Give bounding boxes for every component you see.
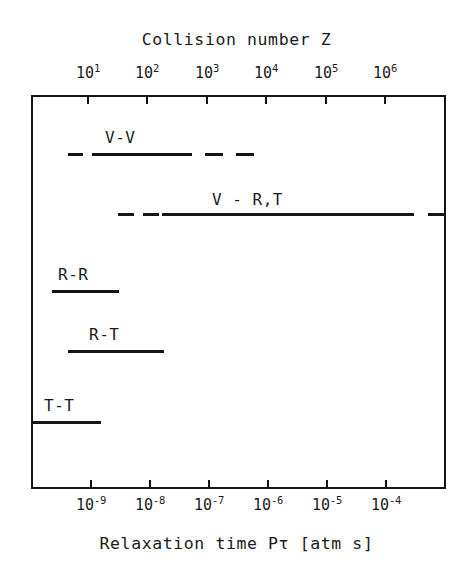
series-label-vrt: V - R,T xyxy=(212,190,283,209)
range-segment xyxy=(205,153,223,156)
top-axis-title: Collision number Z xyxy=(0,30,473,49)
tick-label: 104 xyxy=(254,62,278,82)
tick-mark xyxy=(146,95,148,104)
tick-label: 10-7 xyxy=(194,494,224,514)
tick-label: 10-8 xyxy=(135,494,165,514)
range-segment xyxy=(52,290,119,293)
figure-canvas: Collision number Z 101102103104105106 10… xyxy=(0,0,473,584)
tick-label: 10-9 xyxy=(76,494,106,514)
series-label-tt: T-T xyxy=(44,396,74,415)
tick-label: 105 xyxy=(314,62,338,82)
tick-mark xyxy=(265,95,267,104)
range-segment xyxy=(162,213,414,216)
range-segment xyxy=(143,213,159,216)
range-segment xyxy=(92,153,192,156)
tick-mark xyxy=(149,480,151,489)
tick-label: 106 xyxy=(373,62,397,82)
tick-mark xyxy=(267,480,269,489)
tick-label: 103 xyxy=(195,62,219,82)
tick-label: 10-5 xyxy=(312,494,342,514)
tick-mark xyxy=(384,95,386,104)
tick-mark xyxy=(87,95,89,104)
tick-label: 102 xyxy=(135,62,159,82)
bottom-axis-title: Relaxation time Pτ [atm s] xyxy=(0,534,473,553)
series-label-rt: R-T xyxy=(89,325,119,344)
tick-mark xyxy=(208,480,210,489)
range-segment xyxy=(68,350,164,353)
tick-mark xyxy=(325,95,327,104)
range-segment xyxy=(118,213,134,216)
tick-mark xyxy=(206,95,208,104)
tick-mark xyxy=(90,480,92,489)
range-segment xyxy=(68,153,83,156)
range-segment xyxy=(31,421,101,424)
tick-label: 10-6 xyxy=(253,494,283,514)
range-segment xyxy=(428,213,444,216)
tick-label: 10-4 xyxy=(371,494,401,514)
range-segment xyxy=(236,153,254,156)
tick-label: 101 xyxy=(76,62,100,82)
series-label-vv: V-V xyxy=(105,128,135,147)
tick-mark xyxy=(326,480,328,489)
tick-mark xyxy=(385,480,387,489)
series-label-rr: R-R xyxy=(58,265,88,284)
